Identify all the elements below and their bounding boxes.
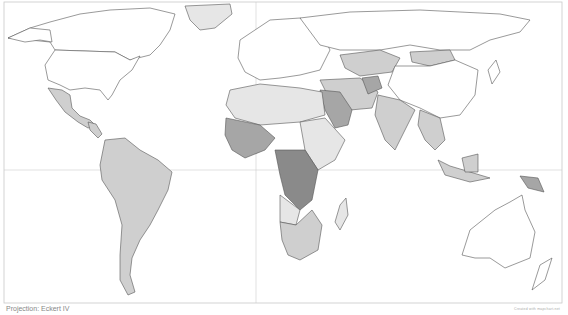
continent-north-africa[interactable] <box>226 84 325 125</box>
map-credit: Created with mapchart.net <box>514 307 560 311</box>
world-map <box>0 0 568 315</box>
projection-label: Projection: Eckert IV <box>6 305 69 312</box>
